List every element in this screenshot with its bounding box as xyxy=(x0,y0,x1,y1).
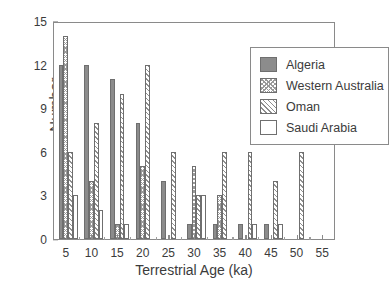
bar xyxy=(120,94,125,239)
x-minor-tick-mark xyxy=(181,237,182,240)
x-tick-mark xyxy=(168,235,169,240)
x-tick-mark xyxy=(194,235,195,240)
legend-item-oman: Oman xyxy=(251,96,388,117)
x-minor-tick-mark xyxy=(284,237,285,240)
bar xyxy=(222,152,227,239)
y-tick-label: 3 xyxy=(13,189,47,203)
y-tick-label: 12 xyxy=(13,59,47,73)
x-tick-mark xyxy=(117,235,118,240)
x-minor-tick-mark xyxy=(104,237,105,240)
legend-swatch-oman xyxy=(260,99,277,114)
x-tick-label: 55 xyxy=(307,246,337,260)
legend-swatch-saudi-arabia xyxy=(260,120,277,135)
bar xyxy=(238,224,243,239)
x-axis-label: Terrestrial Age (ka) xyxy=(53,262,335,278)
bar xyxy=(124,224,129,239)
x-minor-tick-mark xyxy=(309,237,310,240)
bar xyxy=(299,152,304,239)
x-tick-mark xyxy=(271,235,272,240)
x-minor-tick-mark xyxy=(258,237,259,240)
bar xyxy=(278,224,283,239)
x-tick-mark xyxy=(245,235,246,240)
bar xyxy=(110,79,115,239)
legend-item-western-australia: Western Australia xyxy=(251,75,388,96)
chart-legend: AlgeriaWestern AustraliaOmanSaudi Arabia xyxy=(250,47,389,145)
y-tick-label: 15 xyxy=(13,15,47,29)
x-tick-mark xyxy=(143,235,144,240)
bar xyxy=(171,152,176,239)
x-tick-mark xyxy=(91,235,92,240)
plot-frame: AlgeriaWestern AustraliaOmanSaudi Arabia xyxy=(53,22,335,240)
y-tick-label: 9 xyxy=(13,102,47,116)
y-tick-label: 6 xyxy=(13,146,47,160)
x-minor-tick-mark xyxy=(207,237,208,240)
legend-label: Algeria xyxy=(286,58,325,72)
y-tick-label: 0 xyxy=(13,233,47,247)
legend-swatch-algeria xyxy=(260,57,277,72)
legend-item-saudi-arabia: Saudi Arabia xyxy=(251,117,388,138)
bar xyxy=(264,224,269,239)
x-tick-mark xyxy=(297,235,298,240)
x-tick-mark xyxy=(322,235,323,240)
legend-label: Western Australia xyxy=(286,79,384,93)
bar xyxy=(73,195,78,239)
bar xyxy=(99,210,104,239)
bar xyxy=(201,195,206,239)
legend-item-algeria: Algeria xyxy=(251,54,388,75)
bar xyxy=(145,65,150,239)
x-tick-mark xyxy=(220,235,221,240)
x-minor-tick-mark xyxy=(79,237,80,240)
bar xyxy=(161,181,166,239)
x-minor-tick-mark xyxy=(130,237,131,240)
legend-label: Saudi Arabia xyxy=(286,121,357,135)
x-tick-mark xyxy=(66,235,67,240)
legend-swatch-western-australia xyxy=(260,78,277,93)
x-minor-tick-mark xyxy=(232,237,233,240)
bar xyxy=(252,224,257,239)
legend-label: Oman xyxy=(286,100,320,114)
x-minor-tick-mark xyxy=(156,237,157,240)
